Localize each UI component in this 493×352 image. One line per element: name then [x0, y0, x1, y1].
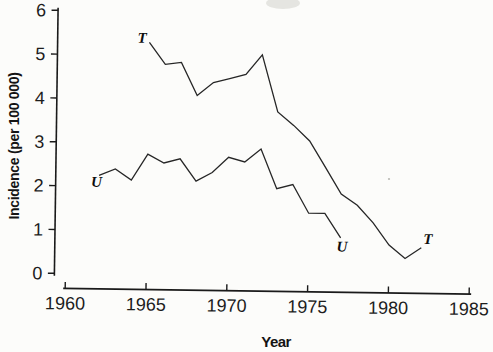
incidence-line-chart: 0123456196019651970197519801985TTUU [0, 0, 493, 352]
y-tick-label-6: 6 [36, 0, 46, 20]
x-tick-label-1960: 1960 [45, 293, 85, 314]
y-tick-label-5: 5 [35, 44, 45, 64]
scan-speck [388, 178, 390, 180]
y-tick-label-2: 2 [33, 176, 43, 196]
series-U-line [98, 147, 342, 238]
y-tick-label-1: 1 [33, 219, 43, 239]
x-tick-label-1970: 1970 [206, 295, 246, 316]
x-axis-line [63, 288, 471, 294]
series-T-start-label: T [137, 30, 147, 46]
series-T-line [146, 42, 424, 258]
scan-smudge [266, 0, 300, 9]
series-T-end-label: T [423, 231, 433, 247]
plot-area: 0123456196019651970197519801985TTUU [32, 0, 493, 319]
x-tick-label-1975: 1975 [287, 297, 327, 318]
y-tick-label-3: 3 [34, 132, 44, 152]
series-U-start-label: U [91, 174, 103, 190]
y-tick-label-4: 4 [35, 88, 45, 108]
y-axis-title: Incidence (per 100 000) [6, 72, 22, 219]
scanned-incidence-chart-page: Incidence (per 100 000) 0123456196019651… [0, 0, 493, 352]
y-tick-label-0: 0 [32, 263, 42, 283]
x-tick-label-1980: 1980 [368, 298, 408, 319]
x-tick-label-1965: 1965 [126, 294, 166, 315]
x-axis-title: Year [261, 333, 290, 350]
series-U-end-label: U [337, 239, 349, 255]
x-tick-label-1985: 1985 [449, 299, 489, 320]
